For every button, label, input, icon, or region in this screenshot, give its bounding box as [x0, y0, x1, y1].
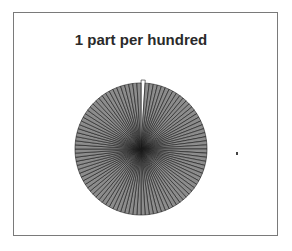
- stray-dot: [236, 152, 238, 155]
- pie-chart: [0, 0, 292, 251]
